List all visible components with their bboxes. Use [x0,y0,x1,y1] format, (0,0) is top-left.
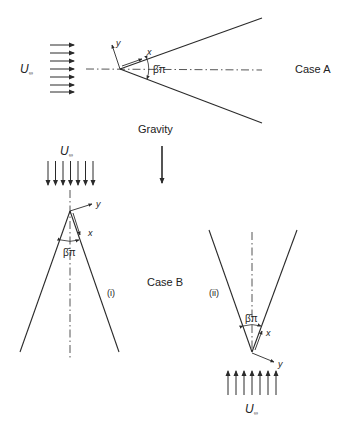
angle-arc-a [147,59,149,79]
centerline-a [86,69,262,70]
sub-ii-label: (ii) [209,288,219,298]
wedge-upper-a [120,18,262,69]
sub-i-label: (i) [107,288,115,298]
y-axis-arrow-b-ii [252,353,274,362]
free-stream-arrows-a [50,45,74,92]
wedge-flow-diagram: U∞ y x β̄π Case A Gravity U∞ y x β̄π (i)… [0,0,346,427]
case-a-label: Case A [295,63,331,75]
case-b-label: Case B [147,276,183,288]
case-b-i [20,161,119,358]
gravity-label: Gravity [138,123,173,135]
free-stream-label-b-ii: U∞ [245,402,258,416]
wedge-left-b-i [20,211,70,352]
free-stream-label-b-i: U∞ [60,144,73,158]
angle-label-a: β̄π [153,64,166,75]
free-stream-label-a: U∞ [20,62,33,76]
y-axis-label-a: y [115,38,121,48]
y-axis-arrow-a [112,45,120,69]
angle-label-b-i: β̄π [63,247,76,258]
angle-label-b-ii: β̄π [245,313,258,324]
x-axis-label-a: x [146,47,152,57]
wedge-right-b-ii [252,230,297,352]
free-stream-arrows-b-i [48,161,93,185]
x-axis-label-b-i: x [87,228,93,238]
y-axis-arrow-b-i [70,204,92,211]
wedge-right-b-i [70,211,119,352]
wedge-lower-a [120,69,262,123]
x-axis-label-b-ii: x [265,328,271,338]
free-stream-arrows-b-ii [228,371,276,395]
y-axis-label-b-i: y [95,199,101,209]
y-axis-label-b-ii: y [277,359,283,369]
